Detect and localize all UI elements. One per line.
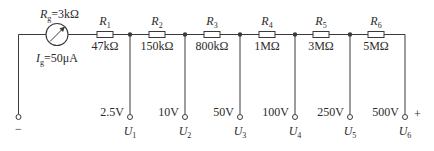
terminal-3-range: 50V: [213, 105, 234, 119]
resistor-1-value: 47kΩ: [92, 39, 119, 53]
galvanometer-current-label-value: =50μA: [44, 51, 78, 65]
resistor-5-icon: [313, 32, 329, 38]
resistor-2-label: R2: [150, 14, 162, 30]
resistor-6-value: 5MΩ: [363, 39, 389, 53]
terminal-2-icon[interactable]: [183, 115, 188, 120]
terminal-3-label: U3: [234, 124, 247, 140]
resistor-3-value: 800kΩ: [196, 39, 229, 53]
resistor-1-label-subscript: 1: [107, 21, 111, 30]
resistor-5-label-subscript: 5: [323, 21, 327, 30]
terminal-5-icon[interactable]: [348, 115, 353, 120]
terminal-5-label-subscript: 5: [352, 131, 356, 140]
terminal-4-range: 100V: [262, 105, 289, 119]
terminal-3-label-subscript: 3: [242, 131, 246, 140]
resistor-4-label-subscript: 4: [269, 21, 273, 30]
resistor-6-icon: [368, 32, 384, 38]
terminal-4-label-subscript: 4: [297, 131, 301, 140]
resistor-3-label-subscript: 3: [214, 21, 218, 30]
resistor-6-label: R6: [369, 14, 381, 30]
terminal-5-range: 250V: [317, 105, 344, 119]
resistor-2-icon: [149, 32, 165, 38]
terminal-1-range: 2.5V: [100, 105, 124, 119]
terminal-1-label: U1: [124, 124, 137, 140]
resistor-3-label: R3: [205, 14, 217, 30]
terminal-6-icon[interactable]: [403, 115, 408, 120]
resistor-5-label: R5: [314, 14, 326, 30]
resistor-5-value: 3MΩ: [308, 39, 334, 53]
terminal-2-label-subscript: 2: [187, 131, 191, 140]
terminal-6-label-subscript: 6: [407, 131, 411, 140]
terminal-2-label: U2: [179, 124, 192, 140]
terminal-6-label: U6: [399, 124, 412, 140]
voltmeter-circuit-diagram: Rg=3kΩIg=50μAR147kΩR2150kΩR3800kΩR41MΩR5…: [0, 0, 434, 151]
terminal-6-range: 500V: [372, 105, 399, 119]
terminal-2-range: 10V: [158, 105, 179, 119]
terminal-4-label: U4: [289, 124, 302, 140]
terminal-3-icon[interactable]: [238, 115, 243, 120]
resistor-2-value: 150kΩ: [141, 39, 174, 53]
common-terminal-sign: −: [15, 122, 22, 136]
terminal-5-label: U5: [344, 124, 357, 140]
terminal-1-icon[interactable]: [128, 115, 133, 120]
resistor-4-icon: [259, 32, 275, 38]
resistor-2-label-subscript: 2: [159, 21, 163, 30]
resistor-4-label: R4: [260, 14, 272, 30]
resistor-1-icon: [97, 32, 113, 38]
resistor-3-icon: [204, 32, 220, 38]
terminal-4-icon[interactable]: [293, 115, 298, 120]
resistor-1-label: R1: [98, 14, 110, 30]
galvanometer-resistance-label-value: =3kΩ: [51, 7, 79, 21]
common-terminal-icon[interactable]: [16, 115, 21, 120]
galvanometer-resistance-label: Rg=3kΩ: [39, 7, 79, 23]
positive-sign: +: [414, 107, 421, 121]
resistor-4-value: 1MΩ: [254, 39, 280, 53]
terminal-1-label-subscript: 1: [132, 131, 136, 140]
galvanometer-current-label: Ig=50μA: [35, 51, 78, 67]
resistor-6-label-subscript: 6: [378, 21, 382, 30]
